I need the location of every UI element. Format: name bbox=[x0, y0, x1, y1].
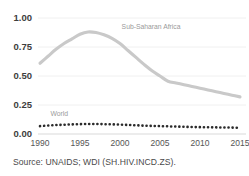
x-tick-label: 2010 bbox=[191, 138, 210, 148]
x-tick-label: 2000 bbox=[111, 138, 130, 148]
series-line-sub-saharan-africa bbox=[40, 32, 240, 97]
series-annotations: Sub-Saharan AfricaWorld bbox=[50, 23, 180, 117]
line-chart-svg: 0.000.250.500.751.00 1990199520002005201… bbox=[0, 0, 249, 150]
series-line-world bbox=[40, 124, 240, 128]
x-tick-label: 2005 bbox=[151, 138, 170, 148]
series-label-sub-saharan-africa: Sub-Saharan Africa bbox=[122, 23, 181, 30]
y-tick-label: 1.00 bbox=[14, 12, 33, 23]
y-tick-label: 0.00 bbox=[14, 128, 33, 139]
x-tick-label: 2015 bbox=[231, 138, 249, 148]
plot-area: 0.000.250.500.751.00 1990199520002005201… bbox=[0, 0, 249, 150]
x-tick-label: 1990 bbox=[31, 138, 50, 148]
y-tick-label: 0.50 bbox=[14, 70, 33, 81]
gridlines bbox=[38, 18, 246, 134]
chart-figure: 0.000.250.500.751.00 1990199520002005201… bbox=[0, 0, 249, 176]
series-lines bbox=[40, 32, 240, 128]
x-tick-label: 1995 bbox=[71, 138, 90, 148]
x-axis-tick-labels: 199019952000200520102015 bbox=[31, 138, 249, 148]
source-note: Source: UNAIDS; WDI (SH.HIV.INCD.ZS). bbox=[13, 157, 176, 167]
y-axis-tick-labels: 0.000.250.500.751.00 bbox=[14, 12, 33, 139]
y-tick-label: 0.25 bbox=[14, 99, 33, 110]
y-tick-label: 0.75 bbox=[14, 41, 33, 52]
series-label-world: World bbox=[50, 110, 68, 117]
